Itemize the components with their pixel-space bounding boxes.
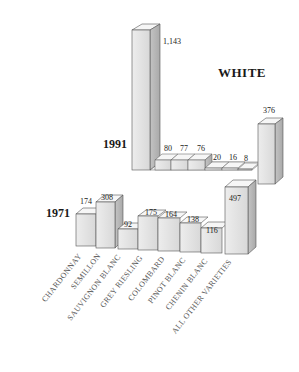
value-1971-grey-riesling: 175 [145, 208, 157, 217]
value-1991-colombard: 20 [213, 153, 221, 162]
value-1991-pinot-blanc: 16 [229, 153, 237, 162]
value-1991-grey-riesling: 76 [197, 144, 205, 153]
chart-title: WHITE [218, 65, 266, 80]
value-1991-semillon: 80 [164, 144, 172, 153]
wine-acreage-3d-chart: WHITE 1991 1971 1,143 80 77 76 20 16 [0, 0, 299, 372]
value-1991-all-other: 376 [263, 106, 275, 115]
category-label-chenin-blanc: CHENIN BLANC [164, 257, 210, 312]
value-1971-semillon: 308 [101, 193, 113, 202]
value-1971-pinot-blanc: 138 [187, 215, 199, 224]
row-label-1991: 1991 [103, 137, 127, 151]
category-labels: CHARDONNAY SEMILLON SAUVIGNON BLANC GREY… [40, 252, 234, 336]
value-1971-colombard: 164 [165, 210, 177, 219]
row-label-1971: 1971 [46, 206, 70, 220]
value-1971-all-other: 497 [229, 194, 241, 203]
value-1991-chardonnay: 1,143 [163, 37, 181, 46]
value-1991-sauvignon-blanc: 77 [180, 144, 188, 153]
value-1991-chenin-blanc: 8 [244, 154, 248, 163]
value-1971-chardonnay: 174 [80, 197, 92, 206]
value-1971-sauvignon-blanc: 92 [124, 220, 132, 229]
bar-1971-all-other [225, 180, 256, 254]
value-1971-chenin-blanc: 116 [206, 226, 218, 235]
bar-1991-chardonnay [132, 24, 160, 170]
bar-1991-all-other [258, 118, 283, 184]
